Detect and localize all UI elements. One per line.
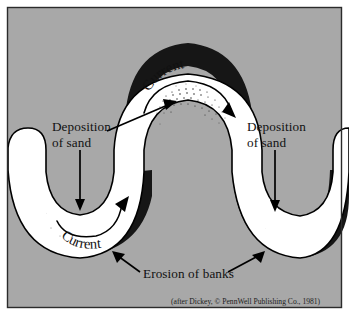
figure-root: Deposition of sand Deposition of sand Cu… (0, 0, 349, 324)
deposition-left-line1: Deposition (52, 119, 111, 134)
credit-line: (after Dickey, © PennWell Publishing Co.… (171, 297, 321, 306)
deposition-right-line2: of sand (247, 135, 286, 150)
erosion-label: Erosion of banks (143, 266, 234, 281)
meander-diagram: Deposition of sand Deposition of sand Cu… (0, 0, 349, 324)
deposition-left-line2: of sand (52, 135, 91, 150)
deposition-right-line1: Deposition (247, 119, 306, 134)
